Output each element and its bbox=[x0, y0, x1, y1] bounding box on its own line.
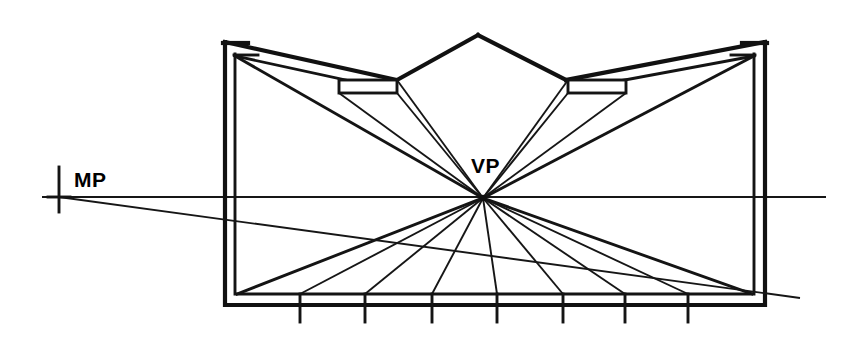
vanishing-point-label: VP bbox=[471, 154, 500, 177]
perspective-construction-drawing: VP MP bbox=[0, 0, 856, 340]
beam-left-body bbox=[339, 80, 397, 93]
perspective-diagram-canvas: VP MP bbox=[0, 0, 856, 340]
ceiling-beam-right bbox=[568, 80, 626, 93]
measuring-point-label: MP bbox=[74, 168, 107, 191]
vanishing-point-dot bbox=[480, 195, 486, 201]
ceiling-beam-left bbox=[339, 80, 397, 93]
beam-right-body bbox=[568, 80, 626, 93]
